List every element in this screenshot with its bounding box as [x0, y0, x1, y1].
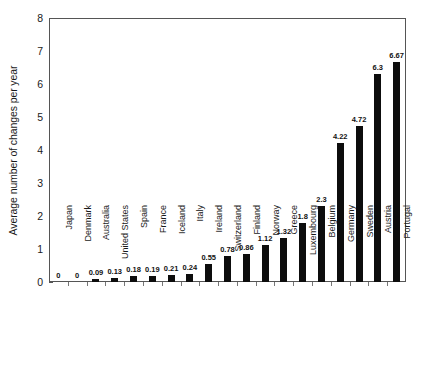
bar-value-label: 4.22: [323, 133, 357, 141]
y-tick-label: 0: [25, 277, 43, 287]
bar-value-label: 2.3: [304, 196, 338, 204]
category-label: Greece: [288, 205, 300, 289]
category-label: Portugal: [401, 205, 413, 289]
y-tick-label: 1: [25, 244, 43, 254]
category-label: Denmark: [82, 205, 94, 289]
category-label: Iceland: [176, 205, 188, 289]
bar: [111, 278, 118, 282]
category-label: Japan: [63, 205, 75, 289]
bar-chart-figure: Average number of changes per year 01234…: [0, 0, 423, 374]
category-label: Sweden: [364, 205, 376, 289]
bar: [130, 276, 137, 282]
category-label: Italy: [194, 205, 206, 289]
category-label: Norway: [270, 205, 282, 289]
category-label: Spain: [138, 205, 150, 289]
category-label: Australia: [100, 205, 112, 289]
y-tick-label: 7: [25, 46, 43, 56]
category-label: Switzerland: [232, 205, 244, 289]
category-label: Luxembourg: [307, 205, 319, 289]
category-label: United States: [119, 205, 131, 289]
bar: [393, 62, 400, 282]
y-tick-label: 6: [25, 79, 43, 89]
y-tick-label: 5: [25, 112, 43, 122]
category-label: Austria: [382, 205, 394, 289]
category-label: Ireland: [213, 205, 225, 289]
y-tick-label: 3: [25, 178, 43, 188]
y-axis-title: Average number of changes per year: [6, 18, 20, 283]
y-tick-label: 4: [25, 145, 43, 155]
category-label: Belgium: [326, 205, 338, 289]
bar-value-label: 4.72: [342, 116, 376, 124]
y-tick-mark: [49, 282, 53, 283]
category-label: France: [157, 205, 169, 289]
y-tick-label: 8: [25, 13, 43, 23]
category-label: Finland: [251, 205, 263, 289]
category-label: Germany: [345, 205, 357, 289]
y-tick-label: 2: [25, 211, 43, 221]
bar-value-label: 6.67: [380, 52, 414, 60]
bar-value-label: 6.3: [361, 64, 395, 72]
